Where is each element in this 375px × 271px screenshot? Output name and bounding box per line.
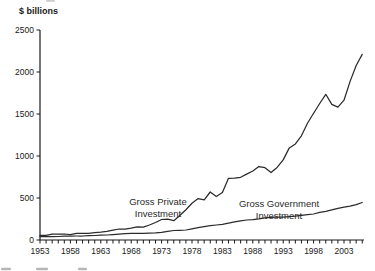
chart-canvas: $ billions 05001000150020002500195319581… [0,0,375,271]
y-tick-label: 2500 [15,25,34,35]
series-lines [40,54,362,236]
investment-line-chart: $ billions 05001000150020002500195319581… [0,0,375,271]
cutoff-text-fragment [36,268,48,270]
x-tick-label: 1983 [213,246,232,256]
y-tick-label: 1000 [15,151,34,161]
x-tick-label: 2003 [335,246,354,256]
x-tick-label: 1998 [304,246,323,256]
x-tick-label: 1968 [122,246,141,256]
top-edge-smudge [46,0,55,2]
x-tick-label: 1958 [61,246,80,256]
y-axis-unit-label: $ billions [19,6,58,16]
cutoff-text-fragment [78,268,87,270]
label-gross-private-investment: Gross PrivateInvestment [129,196,187,219]
x-tick-label: 1953 [31,246,50,256]
x-tick-label: 1988 [243,246,262,256]
axis-ticks: 0500100015002000250019531958196319681973… [15,25,362,256]
x-tick-label: 1978 [183,246,202,256]
y-tick-label: 1500 [15,109,34,119]
x-tick-label: 1993 [274,246,293,256]
cutoff-text-fragment [1,268,11,270]
cutoff-text-fragments [1,0,87,270]
series-labels: Gross PrivateInvestmentGross GovernmentI… [129,196,319,221]
x-tick-label: 1963 [91,246,110,256]
y-tick-label: 500 [20,193,34,203]
label-gross-government-investment: Gross GovernmentInvestment [239,198,320,221]
y-tick-label: 2000 [15,67,34,77]
x-tick-label: 1973 [152,246,171,256]
y-tick-label: 0 [29,235,34,245]
